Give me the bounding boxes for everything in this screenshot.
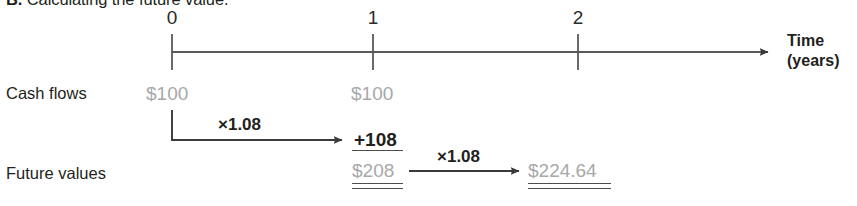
timeline-vector-layer: [0, 0, 857, 206]
future-value-year2-double-rule: [528, 183, 611, 189]
future-value-year1-double-rule: [352, 183, 403, 189]
future-value-year1: $208: [352, 161, 394, 180]
tick-label-0: 0: [152, 8, 192, 27]
row-label-cash-flows: Cash flows: [6, 85, 87, 102]
interest-sum-rule: [352, 150, 403, 151]
tick-label-1: 1: [353, 8, 393, 27]
cash-flow-year0: $100: [146, 84, 188, 103]
multiplier-label-year1-to-year2: ×1.08: [437, 148, 480, 165]
row-label-future-values: Future values: [6, 165, 106, 182]
tick-label-2: 2: [558, 8, 598, 27]
multiplier-label-year0-to-year1: ×1.08: [218, 116, 261, 133]
time-axis-caption-line2: (years): [787, 51, 839, 71]
future-value-timeline-figure: B. Calculating the future value. 0 1 2 T…: [0, 0, 857, 206]
future-value-year2: $224.64: [528, 161, 597, 180]
time-axis-caption: Time (years): [787, 31, 839, 72]
time-axis-caption-line1: Time: [787, 31, 839, 51]
cash-flow-year1: $100: [351, 84, 393, 103]
interest-year1: +108: [354, 130, 397, 149]
